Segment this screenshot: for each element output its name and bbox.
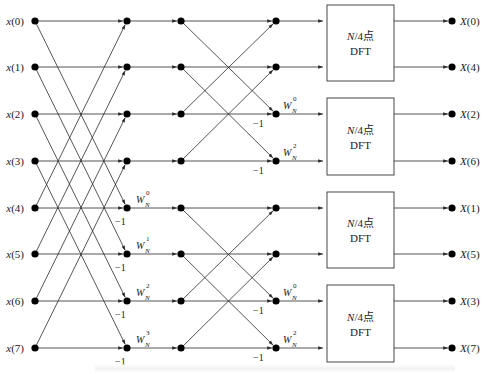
branch-cross	[181, 70, 273, 161]
node	[272, 297, 279, 304]
svg-text:N: N	[291, 341, 297, 349]
svg-text:N/4点: N/4点	[346, 124, 374, 136]
output-label: X(6)	[459, 155, 480, 168]
node	[448, 63, 455, 70]
fft-butterfly-diagram: N/4点DFTN/4点DFTN/4点DFTN/4点DFT −1−1−1−1WN0…	[0, 0, 486, 374]
svg-text:N: N	[291, 294, 297, 302]
output-label: X(3)	[459, 295, 480, 308]
svg-text:DFT: DFT	[350, 45, 371, 57]
branch-cross	[35, 161, 125, 344]
node	[123, 250, 130, 257]
node	[177, 344, 184, 351]
input-label: x(3)	[5, 155, 24, 168]
node	[177, 63, 184, 70]
twiddle-factor-label: WN3	[136, 329, 150, 349]
minus-one-label: −1	[253, 118, 264, 129]
branch-cross	[35, 118, 125, 301]
input-label: x(4)	[5, 202, 24, 215]
minus-one-label: −1	[115, 262, 126, 273]
twiddle-factor-label: WN2	[136, 282, 150, 302]
svg-text:N/4点: N/4点	[346, 30, 374, 42]
node	[123, 204, 130, 211]
node	[448, 344, 455, 351]
node	[31, 297, 38, 304]
node	[123, 297, 130, 304]
input-label: x(0)	[5, 15, 24, 28]
branch-cross	[181, 24, 273, 114]
twiddle-factor-label: WN1	[136, 235, 150, 255]
branch-cross	[181, 257, 273, 348]
node	[272, 63, 279, 70]
node	[448, 250, 455, 257]
node	[272, 250, 279, 257]
node	[448, 157, 455, 164]
svg-text:N: N	[144, 341, 150, 349]
node	[123, 344, 130, 351]
twiddle-factor-label: WN0	[283, 282, 297, 302]
node	[31, 250, 38, 257]
node	[177, 17, 184, 24]
svg-text:DFT: DFT	[350, 139, 371, 151]
input-label: x(5)	[5, 248, 24, 261]
minus-one-label: −1	[115, 216, 126, 227]
output-label: X(2)	[459, 108, 480, 121]
caption-ghost	[95, 364, 455, 372]
branch-cross	[35, 165, 125, 348]
branch-cross	[181, 21, 273, 111]
dft-box: N/4点DFT	[327, 5, 394, 81]
twiddle-factor-label: WN0	[283, 95, 297, 115]
dft-box: N/4点DFT	[327, 285, 394, 362]
node	[448, 297, 455, 304]
svg-text:0: 0	[293, 282, 297, 290]
input-label: x(2)	[5, 108, 24, 121]
node	[448, 17, 455, 24]
node	[123, 17, 130, 24]
branch-cross	[35, 67, 125, 250]
node	[31, 63, 38, 70]
input-label: x(6)	[5, 295, 24, 308]
svg-text:DFT: DFT	[350, 232, 371, 244]
svg-text:0: 0	[293, 95, 297, 103]
branch-cross	[181, 208, 273, 298]
branch-cross	[181, 67, 273, 158]
node	[177, 157, 184, 164]
input-label: x(1)	[5, 61, 24, 74]
svg-text:N/4点: N/4点	[346, 311, 374, 323]
branch-cross	[181, 254, 273, 345]
svg-text:N: N	[144, 294, 150, 302]
svg-text:3: 3	[146, 329, 150, 337]
svg-text:DFT: DFT	[350, 326, 371, 338]
output-label: X(0)	[459, 15, 480, 28]
node	[448, 110, 455, 117]
minus-one-label: −1	[253, 305, 264, 316]
labels: −1−1−1−1WN0WN1WN2WN3−1−1−1−1WN0WN2WN0WN2…	[5, 15, 480, 367]
node	[177, 110, 184, 117]
minus-one-label: −1	[115, 309, 126, 320]
svg-text:N: N	[144, 247, 150, 255]
node	[177, 297, 184, 304]
node	[123, 63, 130, 70]
node	[177, 204, 184, 211]
node	[272, 204, 279, 211]
svg-text:2: 2	[293, 142, 297, 150]
dft-box: N/4点DFT	[327, 98, 394, 175]
output-label: X(7)	[459, 342, 480, 355]
svg-text:N: N	[144, 201, 150, 209]
node	[272, 17, 279, 24]
node	[123, 157, 130, 164]
node	[272, 110, 279, 117]
svg-text:2: 2	[293, 329, 297, 337]
svg-text:1: 1	[146, 235, 150, 243]
node	[272, 157, 279, 164]
branch-cross	[181, 211, 273, 301]
node	[31, 157, 38, 164]
node	[123, 110, 130, 117]
minus-one-label: −1	[253, 165, 264, 176]
output-label: X(5)	[459, 248, 480, 261]
svg-text:0: 0	[146, 189, 150, 197]
input-label: x(7)	[5, 342, 24, 355]
minus-one-label: −1	[253, 352, 264, 363]
output-label: X(1)	[459, 202, 480, 215]
svg-text:2: 2	[146, 282, 150, 290]
twiddle-factor-label: WN2	[283, 142, 297, 162]
